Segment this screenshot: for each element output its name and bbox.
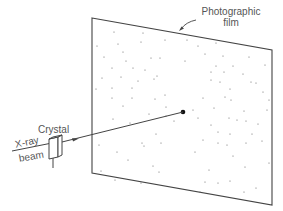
diffraction-spot [217, 142, 218, 143]
crystal-front-face [49, 137, 58, 159]
diffraction-spot [268, 99, 269, 100]
diffraction-spot [213, 107, 214, 108]
diffraction-spot [113, 31, 114, 32]
diffraction-spot [208, 169, 209, 170]
film-label-line1: Photographic [200, 6, 262, 17]
diffraction-spot [228, 117, 229, 118]
diffraction-spot [226, 144, 227, 145]
diffraction-spot [114, 179, 115, 180]
diffraction-spot [243, 110, 244, 111]
diffraction-spot [268, 162, 269, 163]
diffraction-spot [219, 81, 220, 82]
diffraction-spot [242, 73, 243, 74]
diffraction-spot [144, 69, 145, 70]
diffraction-spot [140, 182, 141, 183]
diffraction-spot [129, 122, 130, 123]
diffraction-spot [153, 78, 154, 79]
diffraction-spot [222, 55, 223, 56]
diffraction-spot [224, 96, 225, 97]
diffraction-spot [245, 142, 246, 143]
diffraction-spot [236, 119, 237, 120]
diffraction-spot [152, 165, 153, 166]
diffraction-spot [204, 53, 205, 54]
diffraction-spot [159, 57, 160, 58]
crystal-side-face [58, 135, 62, 157]
diffraction-spot [150, 57, 151, 58]
diffraction-spot [156, 75, 157, 76]
diffraction-spot [230, 99, 231, 100]
diffraction-spot [192, 109, 193, 110]
diffraction-spot [125, 60, 126, 61]
diffraction-spot [120, 76, 121, 77]
diffraction-spot [155, 133, 156, 134]
diffraction-spot [164, 39, 165, 40]
film-label-leader-icon [181, 20, 196, 29]
beam-arrowhead-icon [72, 138, 79, 141]
diffraction-spot [215, 42, 216, 43]
film-label-arrowhead-icon [179, 27, 184, 32]
photographic-film-label: Photographic film [200, 6, 262, 28]
diffraction-spot [262, 91, 263, 92]
diffraction-spot [229, 88, 230, 89]
diffraction-spot [103, 56, 104, 57]
diffraction-spot [261, 140, 262, 141]
diffraction-spot [160, 142, 161, 143]
diffraction-spot [194, 151, 195, 152]
crystal-label: Crystal [38, 124, 69, 135]
diffraction-spot [122, 51, 123, 52]
diffraction-spot [255, 187, 256, 188]
diffraction-spot [143, 145, 144, 146]
diffraction-spot [111, 67, 112, 68]
diffraction-spot [96, 45, 97, 46]
diffraction-spot [184, 60, 185, 61]
diffraction-spot [137, 80, 138, 81]
diffraction-spot [217, 131, 218, 132]
diffraction-spot [232, 155, 233, 156]
diffraction-spot [229, 133, 230, 134]
diffraction-spot [154, 98, 155, 99]
diffraction-spot [244, 166, 245, 167]
diffraction-spot [215, 65, 216, 66]
diffraction-spot [111, 97, 112, 98]
diffraction-spot [251, 133, 252, 134]
diffraction-spot [122, 105, 123, 106]
diffraction-spot [255, 82, 256, 83]
diffraction-spot [243, 191, 244, 192]
diffraction-spot [210, 124, 211, 125]
diffraction-spot [164, 94, 165, 95]
diffraction-spot [165, 106, 166, 107]
diffraction-spot [98, 144, 99, 145]
diffraction-spot [95, 88, 96, 89]
xray-diffraction-diagram [0, 0, 283, 211]
diffraction-spot [141, 142, 142, 143]
diffraction-spot [202, 139, 203, 140]
diffraction-spot [223, 71, 224, 72]
diffraction-spot [245, 120, 246, 121]
diffraction-spot [257, 123, 258, 124]
diffraction-spot [248, 56, 249, 57]
diffraction-spot [101, 77, 102, 78]
diffraction-spot [250, 81, 251, 82]
diffraction-spot [127, 159, 128, 160]
diffraction-spot [229, 180, 230, 181]
diffraction-spot [264, 64, 265, 65]
diffraction-spot [210, 71, 211, 72]
diffraction-spot [199, 191, 200, 192]
diffraction-spot [148, 113, 149, 114]
diffraction-spot [186, 39, 187, 40]
diffraction-spot [232, 65, 233, 66]
diffraction-spot [158, 171, 159, 172]
diffraction-spot [217, 182, 218, 183]
diffraction-spot [112, 118, 113, 119]
diffraction-spot [142, 32, 143, 33]
diffraction-spot [197, 117, 198, 118]
diffraction-spot [197, 45, 198, 46]
diffraction-spot [202, 97, 203, 98]
diffraction-spot [140, 41, 141, 42]
crystal [49, 135, 62, 168]
film-label-line2: film [200, 17, 262, 28]
diffraction-spot [117, 43, 118, 44]
diffraction-spot [111, 87, 112, 88]
diffraction-spot [173, 120, 174, 121]
diffraction-spot [100, 170, 101, 171]
